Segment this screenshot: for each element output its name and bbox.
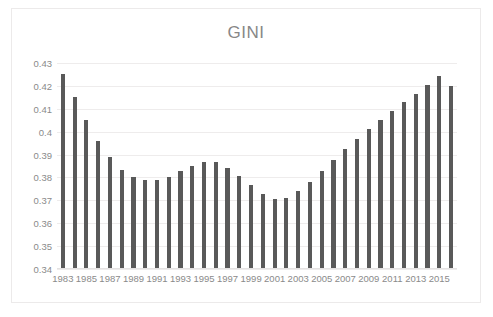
x-axis-tick-label: 2001: [264, 273, 285, 284]
y-axis-tick-label: 0.36: [34, 218, 53, 229]
x-axis-tick-label: 2015: [429, 273, 450, 284]
bar: [355, 139, 359, 269]
plot-area: [57, 63, 457, 269]
x-axis-tick-label: 2009: [358, 273, 379, 284]
bar: [214, 162, 218, 269]
bar: [425, 85, 429, 269]
bar: [73, 97, 77, 269]
bar: [249, 185, 253, 269]
bar: [296, 191, 300, 269]
x-axis-tick-label: 2013: [405, 273, 426, 284]
bar: [343, 149, 347, 269]
x-axis-tick-label: 1987: [99, 273, 120, 284]
x-axis-tick-label: 1989: [123, 273, 144, 284]
bar: [108, 157, 112, 269]
chart-container: GINI 0.430.420.410.40.390.380.370.360.35…: [11, 8, 481, 303]
x-axis-tick-label: 1997: [217, 273, 238, 284]
y-axis-tick-label: 0.41: [34, 103, 53, 114]
bar: [167, 177, 171, 269]
x-axis-tick-label: 2003: [288, 273, 309, 284]
x-axis-tick-label: 2005: [311, 273, 332, 284]
y-axis-tick-label: 0.42: [34, 80, 53, 91]
x-axis-tick-label: 1995: [193, 273, 214, 284]
x-axis-tick-labels: 1983198519871989199119931995199719992001…: [57, 273, 457, 289]
gridline: [57, 269, 457, 270]
y-axis-tick-label: 0.37: [34, 195, 53, 206]
y-axis-tick-labels: 0.430.420.410.40.390.380.370.360.350.34: [12, 63, 52, 269]
bar: [402, 102, 406, 269]
bar: [143, 180, 147, 269]
bar: [237, 176, 241, 269]
y-axis-tick-label: 0.38: [34, 172, 53, 183]
bar: [390, 111, 394, 269]
y-axis-tick-label: 0.43: [34, 58, 53, 69]
bar: [202, 162, 206, 269]
bar: [178, 171, 182, 269]
bar: [84, 120, 88, 269]
y-axis-tick-label: 0.35: [34, 241, 53, 252]
y-axis-tick-label: 0.4: [39, 126, 52, 137]
bar: [378, 120, 382, 269]
bar: [437, 76, 441, 269]
bar: [331, 160, 335, 269]
bar: [190, 166, 194, 269]
chart-title: GINI: [12, 23, 480, 43]
bar-series: [57, 63, 457, 269]
bar: [449, 86, 453, 269]
bar: [261, 194, 265, 269]
x-axis-tick-label: 2007: [335, 273, 356, 284]
y-axis-tick-label: 0.34: [34, 264, 53, 275]
bar: [414, 94, 418, 269]
bar: [367, 129, 371, 269]
x-axis-tick-label: 1991: [146, 273, 167, 284]
y-axis-tick-label: 0.39: [34, 149, 53, 160]
bar: [96, 141, 100, 269]
bar: [308, 182, 312, 269]
bar: [284, 198, 288, 269]
bar: [225, 168, 229, 269]
bar: [61, 74, 65, 269]
bar: [320, 171, 324, 269]
x-axis-tick-label: 2011: [382, 273, 402, 284]
bar: [273, 199, 277, 269]
x-axis-tick-label: 1985: [76, 273, 97, 284]
x-axis-tick-label: 1999: [241, 273, 262, 284]
x-axis-line: [57, 268, 457, 269]
bar: [155, 180, 159, 269]
x-axis-tick-label: 1983: [52, 273, 73, 284]
bar: [131, 177, 135, 269]
x-axis-tick-label: 1993: [170, 273, 191, 284]
bar: [120, 170, 124, 269]
